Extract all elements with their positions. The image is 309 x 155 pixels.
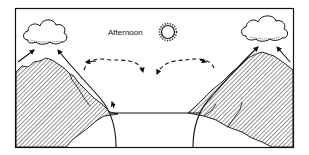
- valley-breeze-diagram: Afternoon: [0, 0, 309, 155]
- time-of-day-label: Afternoon: [108, 28, 143, 37]
